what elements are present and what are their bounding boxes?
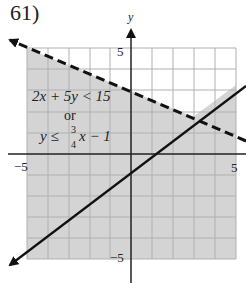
connector-or: or bbox=[64, 108, 76, 123]
tick-label-top: 5 bbox=[117, 44, 124, 59]
tick-label-bottom: −5 bbox=[110, 250, 124, 265]
tick-label-left: −5 bbox=[14, 159, 28, 174]
graph: y 5 −5 5 −5 2x + 5y < 15 or y ≤ 3 4 x − … bbox=[0, 0, 246, 283]
inequality-2-rhs: x − 1 bbox=[78, 128, 111, 144]
inequality-2-lhs: y ≤ bbox=[38, 128, 59, 144]
inequality-2-denominator: 4 bbox=[71, 139, 76, 150]
inequality-1: 2x + 5y < 15 bbox=[32, 88, 111, 104]
tick-label-right: 5 bbox=[231, 160, 238, 175]
y-axis-label: y bbox=[127, 10, 134, 24]
inequality-2-numerator: 3 bbox=[71, 124, 76, 135]
